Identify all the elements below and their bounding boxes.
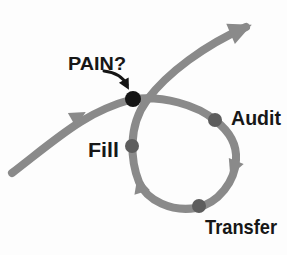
pain-pointer-arrowhead-icon (119, 77, 134, 92)
pain-point-dot (125, 91, 141, 107)
transfer-node-dot (192, 199, 206, 213)
exit-arrowhead-icon (226, 15, 256, 44)
incoming-flow-curve (12, 99, 133, 173)
audit-label: Audit (231, 106, 281, 129)
transfer-label: Transfer (205, 215, 277, 238)
fill-node-dot (125, 139, 139, 153)
pain-label: PAIN? (68, 53, 126, 74)
fill-label: Fill (88, 138, 119, 161)
loop-flow-curve (132, 98, 236, 208)
flow-diagram: PAIN? Fill Audit Transfer (0, 0, 287, 255)
exit-flow-curve (147, 27, 246, 100)
diagram-canvas: PAIN? Fill Audit Transfer (0, 0, 287, 255)
audit-node-dot (208, 113, 222, 127)
